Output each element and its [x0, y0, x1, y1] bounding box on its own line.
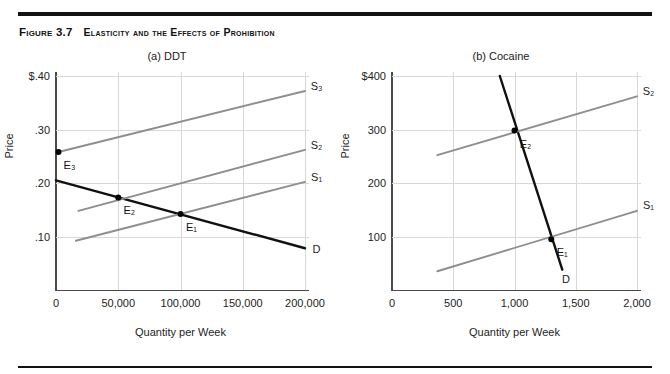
curve-label-d-ddt: D	[313, 243, 321, 255]
equilibrium-label-cocaine: E₁	[557, 246, 568, 258]
gridline-vertical	[637, 72, 638, 290]
chart-panel-ddt: (a) DDT Price Quantity per Week .10.20.3…	[0, 0, 336, 374]
equilibrium-point-cocaine	[512, 128, 518, 134]
curve-layer-cocaine	[392, 76, 637, 290]
curve-layer-ddt	[56, 76, 305, 290]
equilibrium-label-ddt: E₃	[64, 159, 76, 171]
equilibrium-point-ddt	[178, 211, 184, 217]
equilibrium-label-ddt: E₂	[123, 204, 135, 216]
panel-title-cocaine: (b) Cocaine	[356, 50, 646, 62]
y-axis-tick-ddt-0: .10	[35, 231, 50, 243]
curve-label-s2-cocaine: S₂	[643, 85, 655, 97]
curve-label-d-cocaine: D	[562, 273, 570, 285]
equilibrium-label-ddt: E₁	[186, 221, 197, 233]
y-axis-tick-ddt-3: $.40	[29, 70, 50, 82]
curve-label-s2-ddt: S₂	[311, 139, 323, 151]
curve-s1-cocaine	[437, 211, 637, 271]
x-axis-tick-cocaine-2: 1,000	[501, 297, 529, 309]
x-axis-tick-ddt-4: 200,000	[285, 297, 325, 309]
plot-area-cocaine: 100200300$40005001,0001,5002,000DS₁S₂E₁E…	[392, 76, 637, 290]
y-axis-tick-ddt-2: .30	[35, 124, 50, 136]
y-axis-tick-cocaine-2: 300	[368, 124, 386, 136]
x-axis-tick-cocaine-3: 1,500	[562, 297, 590, 309]
x-axis-tick-ddt-3: 150,000	[223, 297, 263, 309]
curve-s2-ddt	[78, 150, 305, 211]
y-axis-tick-cocaine-3: $400	[362, 70, 386, 82]
x-axis-title-ddt: Quantity per Week	[56, 326, 305, 338]
y-axis-tick-cocaine-1: 200	[368, 177, 386, 189]
y-axis-title-ddt: Price	[3, 133, 15, 158]
x-axis-tick-ddt-0: 0	[53, 297, 59, 309]
equilibrium-point-ddt	[55, 149, 61, 155]
x-axis-tick-cocaine-0: 0	[389, 297, 395, 309]
curve-label-s3-ddt: S₃	[311, 80, 323, 92]
x-axis-tick-cocaine-4: 2,000	[623, 297, 651, 309]
y-axis-tick-ddt-1: .20	[35, 177, 50, 189]
x-axis-tick-ddt-2: 100,000	[161, 297, 201, 309]
equilibrium-point-cocaine	[548, 236, 554, 242]
x-axis-title-cocaine: Quantity per Week	[392, 326, 637, 338]
equilibrium-point-ddt	[115, 194, 121, 200]
figure-rule-bottom	[18, 366, 652, 368]
equilibrium-label-cocaine: E₂	[520, 138, 532, 150]
y-axis-title-cocaine: Price	[339, 133, 351, 158]
curve-label-s1-ddt: S₁	[311, 171, 322, 183]
curve-label-s1-cocaine: S₁	[643, 199, 654, 211]
x-axis-tick-cocaine-1: 500	[444, 297, 462, 309]
panel-title-ddt: (a) DDT	[22, 50, 312, 62]
figure-container: Figure 3.7Elasticity and the Effects of …	[0, 0, 670, 374]
curve-s3-ddt	[58, 91, 305, 152]
plot-area-ddt: .10.20.30$.40050,000100,000150,000200,00…	[56, 76, 305, 290]
y-axis-tick-cocaine-0: 100	[368, 231, 386, 243]
x-axis-tick-ddt-1: 50,000	[101, 297, 135, 309]
curve-s2-cocaine	[437, 96, 637, 155]
